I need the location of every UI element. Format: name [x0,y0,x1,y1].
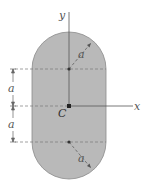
y-axis-label: y [58,9,66,22]
centroid-label: C [58,107,67,120]
lower-radius-label: a [78,152,85,165]
section-diagram: a a y x a a C [0,0,154,188]
upper-radius-label: a [78,48,85,61]
centroid-point [67,104,71,108]
x-axis-label: x [134,100,141,113]
dimension-line [10,69,16,142]
lower-center-point [67,140,70,143]
upper-spacing-label: a [8,82,15,95]
lower-spacing-label: a [8,118,15,131]
upper-center-point [67,67,70,70]
